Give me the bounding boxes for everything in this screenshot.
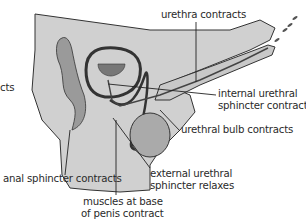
testis — [130, 113, 170, 157]
label-external-sphincter-line1: external urethral — [150, 168, 232, 180]
label-muscles-base-line1: muscles at base — [83, 196, 163, 208]
label-muscles-base-line2: of penis contract — [81, 208, 164, 219]
label-internal-sphincter-line2: sphincter contracts — [218, 100, 306, 112]
anatomy-diagram: cts urethra contracts internal urethral … — [0, 0, 306, 219]
label-internal-sphincter-line1: internal urethral — [218, 88, 297, 100]
ejaculate-drops-icon — [274, 15, 298, 42]
label-left-cut: cts — [0, 82, 14, 94]
label-urethral-bulb: urethral bulb contracts — [181, 124, 293, 136]
label-anal-sphincter: anal sphincter contracts — [3, 173, 122, 185]
label-urethra-contracts: urethra contracts — [161, 9, 246, 21]
label-external-sphincter-line2: sphincter relaxes — [150, 180, 234, 192]
